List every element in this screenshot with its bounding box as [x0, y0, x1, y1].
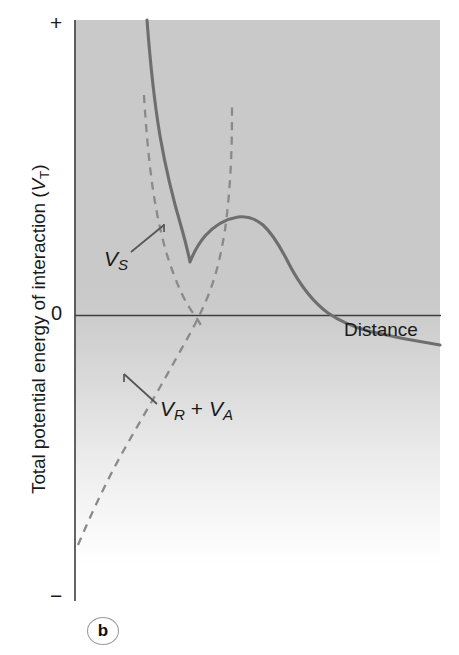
leader-line-vs: [131, 224, 164, 252]
y-tick-label-positive: +: [50, 12, 62, 33]
panel-letter-badge: b: [87, 617, 119, 645]
curve-vr-plus-va: [78, 104, 232, 545]
leader-line-vr-va: [124, 374, 157, 404]
x-axis-title: Distance: [344, 320, 418, 339]
curve-vs: [144, 95, 201, 326]
annotation-sum-operator: +: [185, 397, 209, 420]
y-axis-title-suffix: ): [28, 165, 49, 171]
annotation-sum-subscript-2: A: [223, 406, 233, 423]
annotation-sum-symbol-2: V: [209, 397, 223, 420]
y-tick-label-negative: −: [50, 585, 62, 606]
annotation-vs-subscript: S: [118, 256, 128, 273]
annotation-label-vr-plus-va: VR + VA: [160, 398, 233, 422]
y-axis-title: Total potential energy of interaction (V…: [29, 119, 52, 539]
annotation-sum-subscript-1: R: [174, 406, 185, 423]
annotation-label-vs: VS: [104, 248, 128, 272]
figure-panel-b: Total potential energy of interaction (V…: [0, 0, 459, 655]
curve-vt-total: [147, 20, 440, 345]
annotation-sum-symbol-1: V: [160, 397, 174, 420]
y-axis-title-subscript: T: [37, 171, 52, 179]
y-axis-title-prefix: Total potential energy of interaction (: [28, 192, 49, 494]
y-axis-title-symbol: V: [28, 179, 49, 192]
y-tick-label-zero: 0: [51, 303, 62, 323]
annotation-vs-symbol: V: [104, 247, 118, 270]
